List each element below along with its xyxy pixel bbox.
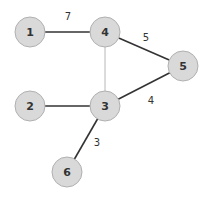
node-6: 6	[52, 157, 82, 187]
nodes-layer: 145236	[15, 17, 198, 187]
node-1: 1	[15, 17, 45, 47]
edge-weight-label: 3	[94, 137, 100, 148]
node-3: 3	[90, 91, 120, 121]
node-label: 2	[26, 100, 34, 113]
node-4: 4	[90, 17, 120, 47]
node-5: 5	[168, 51, 198, 81]
edge-weight-label: 4	[148, 95, 154, 106]
node-2: 2	[15, 91, 45, 121]
node-label: 5	[179, 60, 187, 73]
node-label: 6	[63, 166, 71, 179]
node-label: 1	[26, 26, 34, 39]
node-label: 4	[101, 26, 109, 39]
node-label: 3	[101, 100, 109, 113]
edge-weight-label: 7	[65, 11, 71, 22]
graph-diagram: 7543 145236	[0, 0, 211, 198]
edge-weight-label: 5	[143, 32, 149, 43]
